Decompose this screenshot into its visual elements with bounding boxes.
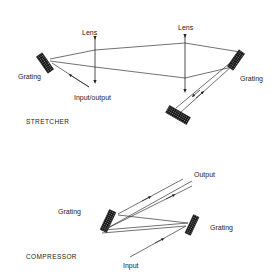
compressor-grating-right-label: Grating [210, 224, 233, 232]
stretcher-lens-right-label: Lens [178, 24, 194, 31]
compressor-title: COMPRESSOR [26, 253, 77, 260]
stretcher-lens-left-label: Lens [82, 29, 98, 36]
stretcher-title: STRETCHER [26, 118, 69, 125]
compressor-output-ray-1 [118, 179, 183, 214]
compressor-grating-right [185, 215, 199, 236]
stretcher-ray-lower [50, 61, 232, 78]
compressor-output-arrow-2 [166, 195, 174, 199]
stretcher-input-output-label: Input/output [74, 94, 111, 102]
stretcher-grating-left [36, 53, 53, 73]
stretcher-mirror-lower [166, 106, 191, 125]
compressor-ray-3 [102, 226, 186, 233]
stretcher-grating-right-label: Grating [240, 75, 263, 83]
compressor-grating-left-label: Grating [58, 208, 81, 216]
stretcher-ray-upper [50, 43, 240, 59]
compressor-input-arrow [155, 239, 163, 243]
stretcher-input-arrow [70, 75, 89, 87]
stretcher-grating-left-label: Grating [18, 73, 41, 81]
diagram-canvas: Lens Lens Grating Grating Input/output S… [0, 0, 279, 276]
stretcher-section: Lens Lens Grating Grating Input/output S… [18, 24, 263, 125]
compressor-input-label: Input [123, 262, 139, 270]
compressor-output-arrow-1 [142, 197, 150, 201]
compressor-output-ray-2 [104, 186, 192, 230]
compressor-output-label: Output [194, 171, 215, 179]
compressor-ray-4 [104, 181, 192, 230]
compressor-section: Output Grating Grating COMPRESSOR Input [26, 171, 233, 270]
